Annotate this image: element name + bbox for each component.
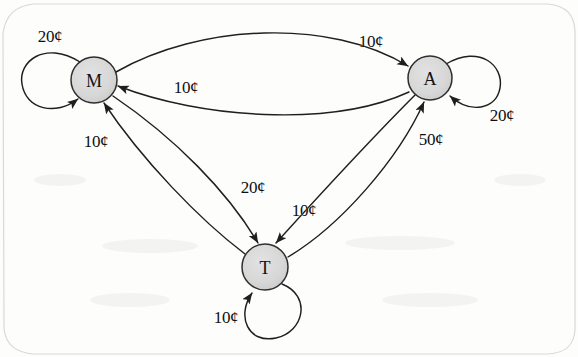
self-loop-label-a: 20¢ (490, 106, 515, 126)
scan-artifacts (34, 174, 546, 307)
edge-label-m-to-t: 20¢ (241, 178, 266, 198)
node-t[interactable] (242, 244, 288, 290)
self-loop-a (446, 56, 500, 107)
edge-label-a-to-m: 10¢ (174, 78, 199, 98)
edge-label-t-to-m: 10¢ (84, 132, 109, 152)
node-a[interactable] (408, 56, 452, 100)
edge-t-to-a (288, 102, 424, 257)
edge-t-to-m (104, 103, 245, 254)
page-border (3, 4, 575, 354)
edge-label-m-to-a: 10¢ (359, 32, 384, 52)
edge-label-t-to-a: 50¢ (419, 130, 444, 150)
edge-label-a-to-t: 10¢ (292, 201, 317, 221)
edge-m-to-t (113, 96, 258, 243)
diagram-page: M A T 20¢ 20¢ 10¢ 10¢ 10¢ 20¢ 10¢ 10¢ 50… (0, 0, 578, 357)
self-loop-label-m: 20¢ (38, 27, 63, 47)
self-loop-label-t: 10¢ (214, 308, 239, 328)
diagram-canvas (0, 0, 578, 357)
node-group (71, 56, 452, 290)
edge-a-to-m (118, 86, 409, 115)
node-m[interactable] (71, 57, 117, 103)
self-loop-t (245, 284, 301, 339)
